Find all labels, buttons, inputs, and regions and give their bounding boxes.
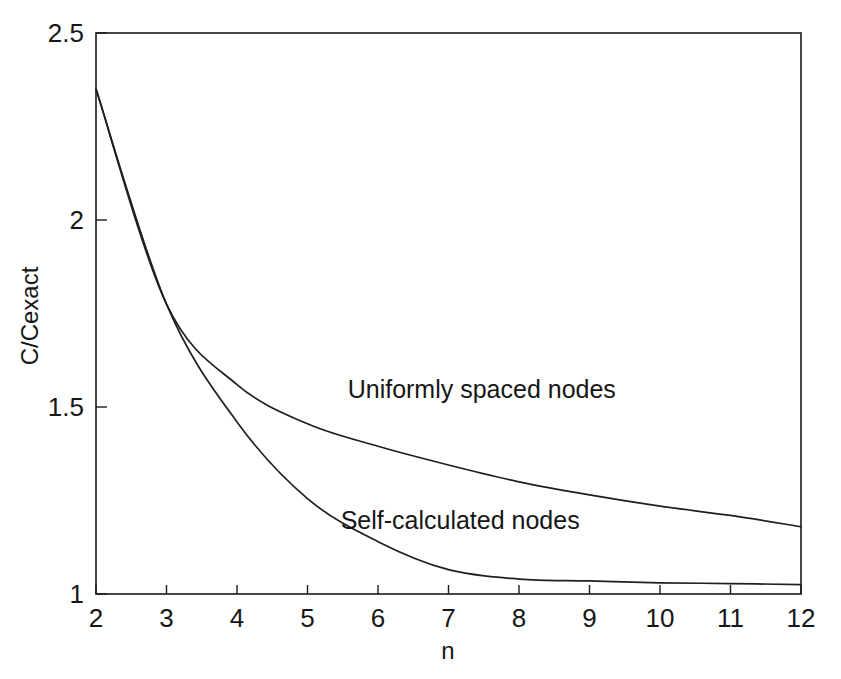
x-tick-label: 3	[159, 603, 173, 633]
y-tick-label: 2.5	[48, 18, 84, 48]
x-tick-label: 7	[441, 603, 455, 633]
y-tick-label: 1	[70, 579, 84, 609]
x-tick-label: 12	[787, 603, 816, 633]
x-tick-label: 2	[89, 603, 103, 633]
y-tick-label: 2	[70, 205, 84, 235]
line-chart: 23456789101112 11.522.5 Uniformly spaced…	[0, 0, 841, 679]
x-tick-label: 11	[717, 603, 744, 633]
x-tick-label: 5	[300, 603, 314, 633]
x-tick-label: 10	[646, 603, 675, 633]
series-annotation-1: Self-calculated nodes	[341, 506, 580, 534]
x-tick-label: 4	[230, 603, 244, 633]
x-axis-title: n	[441, 637, 454, 664]
x-tick-label: 8	[512, 603, 526, 633]
series-annotation-0: Uniformly spaced nodes	[348, 375, 616, 403]
x-tick-label: 9	[582, 603, 596, 633]
y-axis-title: C/Cexact	[16, 266, 43, 365]
figure-background	[0, 0, 841, 679]
x-tick-label: 6	[371, 603, 385, 633]
chart-figure: 23456789101112 11.522.5 Uniformly spaced…	[0, 0, 841, 679]
y-tick-label: 1.5	[48, 392, 84, 422]
